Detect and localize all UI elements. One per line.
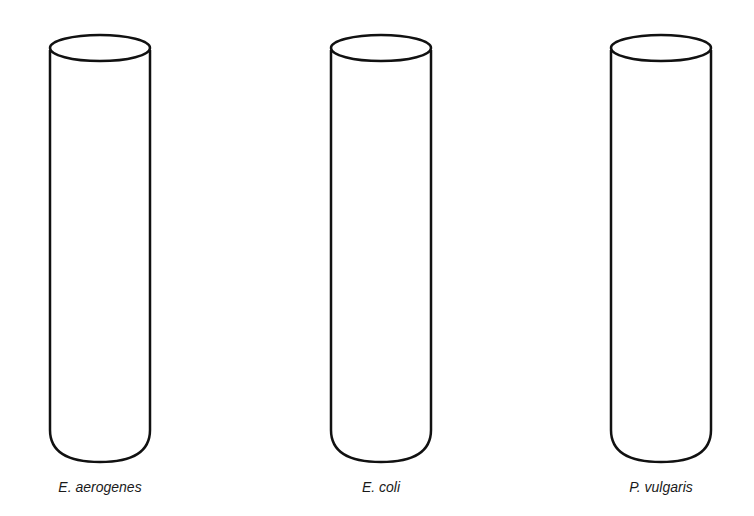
tube-label-2: E. coli — [301, 479, 461, 495]
tube-label-1: E. aerogenes — [20, 479, 180, 495]
test-tube-3 — [611, 35, 711, 462]
tube-label-3: P. vulgaris — [581, 479, 741, 495]
tubes-diagram — [0, 0, 754, 516]
test-tube-2 — [331, 35, 431, 462]
test-tube-1 — [50, 35, 150, 462]
